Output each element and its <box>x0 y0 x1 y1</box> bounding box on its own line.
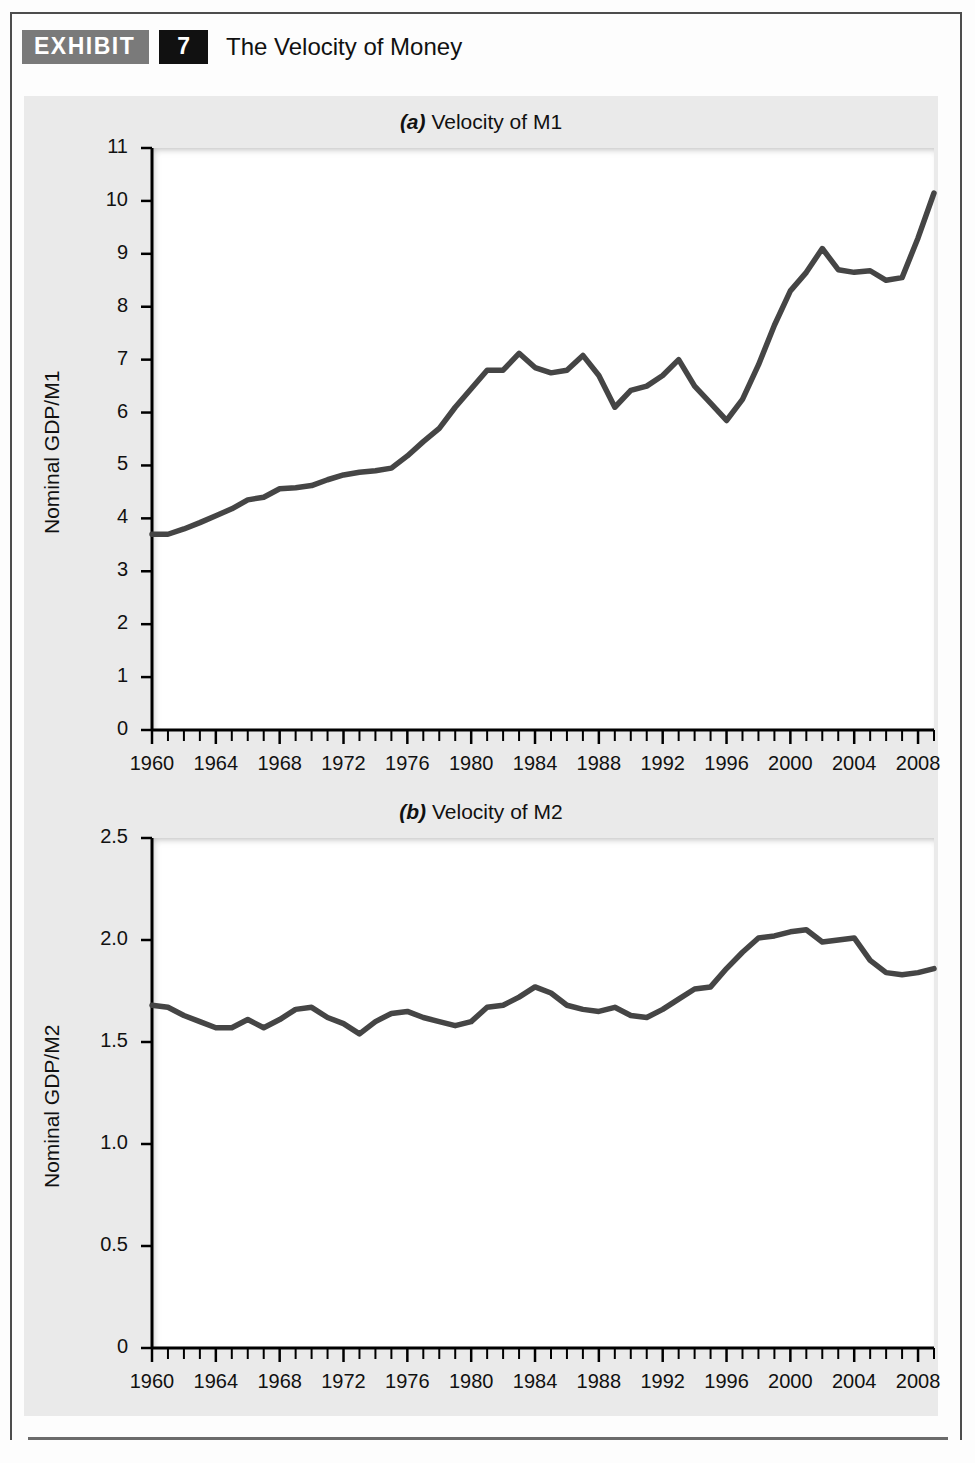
chart-a-ytick-label: 11 <box>82 135 128 158</box>
chart-b-xtick-label: 2004 <box>824 1370 884 1393</box>
chart-b-xtick-label: 1964 <box>186 1370 246 1393</box>
chart-b-xtick-label: 1960 <box>122 1370 182 1393</box>
chart-velocity-m2: (b) Velocity of M2 Nominal GDP/M2 00.51.… <box>24 786 938 1416</box>
chart-a-ytick-label: 3 <box>82 558 128 581</box>
chart-a-xtick-label: 2000 <box>760 752 820 775</box>
chart-b-xtick-label: 1980 <box>441 1370 501 1393</box>
chart-a-ytick-label: 5 <box>82 452 128 475</box>
chart-b-ytick-label: 2.5 <box>82 825 128 848</box>
chart-a-xtick-label: 1992 <box>633 752 693 775</box>
chart-a-ytick-label: 9 <box>82 241 128 264</box>
chart-a-xtick-label: 1972 <box>314 752 374 775</box>
chart-a-xtick-label: 1988 <box>569 752 629 775</box>
chart-a-ytick-label: 4 <box>82 505 128 528</box>
exhibit-number-badge: 7 <box>159 30 208 64</box>
chart-velocity-m1: (a) Velocity of M1 Nominal GDP/M1 012345… <box>24 96 938 786</box>
exhibit-tag-label: EXHIBIT <box>22 30 149 64</box>
chart-a-ytick-label: 6 <box>82 400 128 423</box>
chart-b-xtick-label: 1996 <box>697 1370 757 1393</box>
exhibit-header: EXHIBIT 7 The Velocity of Money <box>22 30 462 64</box>
chart-a-xtick-label: 2004 <box>824 752 884 775</box>
chart-b-ytick-label: 0.5 <box>82 1233 128 1256</box>
chart-a-ytick-label: 1 <box>82 664 128 687</box>
chart-b-xtick-label: 1968 <box>250 1370 310 1393</box>
chart-a-svg <box>24 96 938 786</box>
chart-b-xtick-label: 1992 <box>633 1370 693 1393</box>
exhibit-page: EXHIBIT 7 The Velocity of Money (a) Velo… <box>0 0 975 1463</box>
chart-a-ytick-label: 2 <box>82 611 128 634</box>
chart-a-ytick-label: 0 <box>82 717 128 740</box>
chart-b-ytick-label: 0 <box>82 1335 128 1358</box>
page-frame-top <box>10 12 962 14</box>
chart-a-xtick-label: 1968 <box>250 752 310 775</box>
chart-b-ytick-label: 1.0 <box>82 1131 128 1154</box>
chart-b-xtick-label: 1972 <box>314 1370 374 1393</box>
exhibit-title: The Velocity of Money <box>226 35 462 59</box>
chart-a-ytick-label: 8 <box>82 294 128 317</box>
chart-b-xtick-label: 2000 <box>760 1370 820 1393</box>
page-frame-left <box>10 12 12 1440</box>
chart-b-xtick-label: 1988 <box>569 1370 629 1393</box>
chart-b-ytick-label: 1.5 <box>82 1029 128 1052</box>
chart-a-xtick-label: 1976 <box>377 752 437 775</box>
chart-a-xtick-label: 1996 <box>697 752 757 775</box>
chart-a-xtick-label: 2008 <box>888 752 948 775</box>
charts-panel: (a) Velocity of M1 Nominal GDP/M1 012345… <box>24 96 938 1416</box>
chart-b-xtick-label: 1976 <box>377 1370 437 1393</box>
chart-b-xtick-label: 1984 <box>505 1370 565 1393</box>
chart-b-xtick-label: 2008 <box>888 1370 948 1393</box>
chart-a-ytick-label: 7 <box>82 347 128 370</box>
chart-b-svg <box>24 786 938 1416</box>
chart-a-xtick-label: 1980 <box>441 752 501 775</box>
bottom-divider <box>28 1437 948 1440</box>
chart-a-xtick-label: 1984 <box>505 752 565 775</box>
chart-a-ytick-label: 10 <box>82 188 128 211</box>
chart-b-ytick-label: 2.0 <box>82 927 128 950</box>
chart-a-xtick-label: 1960 <box>122 752 182 775</box>
chart-a-xtick-label: 1964 <box>186 752 246 775</box>
page-frame-right <box>960 12 962 1440</box>
